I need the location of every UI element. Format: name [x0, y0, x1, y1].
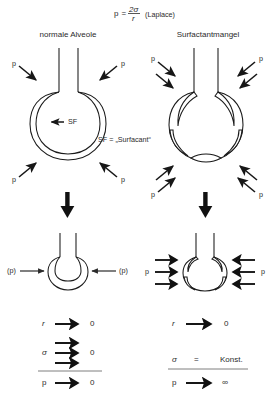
right-pressure-label-bl: p — [151, 190, 155, 199]
left-pressure-label-br: p — [121, 175, 125, 184]
left-pressure-label-bl: p — [12, 175, 16, 184]
right-column-title: Surfactantmangel — [177, 30, 240, 39]
right-pressure-result: ∞ — [222, 377, 228, 387]
left-pressure-result: 0 — [90, 378, 95, 387]
formula-p: p — [114, 9, 119, 18]
left-radius-result: 0 — [90, 319, 95, 328]
right-pressure-symbol: p — [172, 378, 177, 387]
left-radius-symbol: r — [42, 319, 45, 328]
left-sigma-result: 0 — [90, 348, 95, 357]
legend-surfactant: SF = „Surfacant“ — [98, 135, 152, 144]
left-pressure-label-tl: p — [12, 59, 16, 68]
right-sigma-relation: = — [194, 355, 199, 364]
formula-equals: = — [122, 9, 127, 18]
background — [0, 0, 270, 394]
right-bottom-pressure-label-r: p — [261, 267, 265, 276]
diagram-canvas: p = 2σ r (Laplace) normale Alveole Surfa… — [0, 0, 270, 394]
right-radius-symbol: r — [172, 319, 175, 328]
formula-denominator: r — [132, 14, 135, 23]
left-pressure-label-tr: p — [121, 59, 125, 68]
left-bottom-pressure-label-l: (p) — [7, 266, 16, 275]
left-sf-label: SF — [68, 117, 78, 126]
right-radius-result: 0 — [224, 319, 229, 328]
left-bottom-pressure-label-r: (p) — [119, 266, 128, 275]
formula-annotation: (Laplace) — [145, 10, 175, 19]
right-pressure-label-br: p — [259, 190, 263, 199]
right-bottom-pressure-label-l: p — [145, 267, 149, 276]
left-column-title: normale Alveole — [40, 30, 97, 39]
right-sigma-result: Konst. — [220, 355, 243, 364]
left-pressure-symbol: p — [42, 378, 47, 387]
right-pressure-label-tl: p — [151, 54, 155, 63]
right-pressure-label-tr: p — [259, 54, 263, 63]
formula-numerator: 2σ — [128, 5, 139, 14]
